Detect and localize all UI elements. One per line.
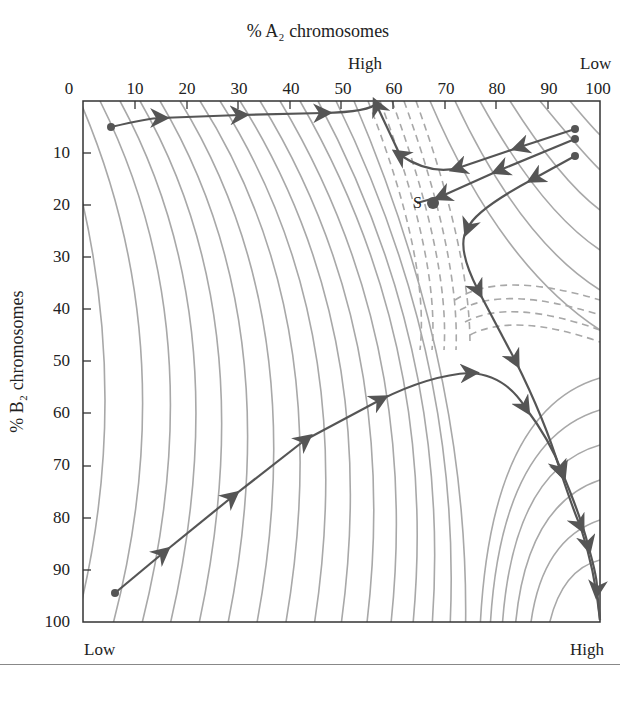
plot-area [0,0,636,703]
trajectory-4 [535,156,575,178]
trajectories [111,103,600,620]
trajectory-5 [115,553,163,593]
contour-lines [60,101,600,700]
bottom-high-label: High [570,641,604,658]
plot-frame [83,101,600,622]
trajectory-2 [520,129,575,147]
bottom-rule [0,664,620,665]
saddle-label: S [413,195,422,211]
bottom-low-label: Low [84,641,115,658]
saddle-point [427,197,439,209]
